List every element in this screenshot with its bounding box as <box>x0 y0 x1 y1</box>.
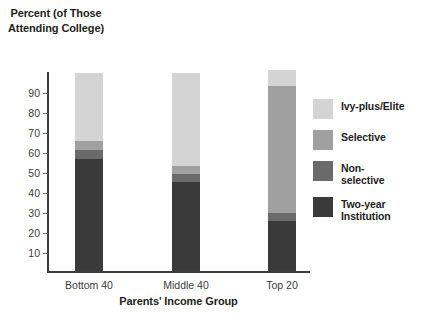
bar-segment[interactable] <box>268 213 296 221</box>
y-tick-mark <box>43 193 48 194</box>
y-tick-mark <box>43 213 48 214</box>
legend-label: Ivy-plus/Elite <box>341 99 404 112</box>
stacked-bar-chart: Percent (of Those Attending College) 102… <box>0 0 421 322</box>
x-axis-label: Top 20 <box>266 279 298 291</box>
y-tick-mark <box>43 133 48 134</box>
y-tick-label: 70 <box>28 127 40 139</box>
y-tick-mark <box>43 233 48 234</box>
x-axis-line <box>47 271 310 273</box>
y-tick-label: 30 <box>28 207 40 219</box>
legend-swatch-icon <box>313 161 333 181</box>
y-tick-label: 40 <box>28 187 40 199</box>
bar-top-20[interactable] <box>268 70 296 271</box>
bar-segment[interactable] <box>268 221 296 271</box>
y-tick-mark <box>43 153 48 154</box>
bar-segment[interactable] <box>172 182 200 271</box>
x-axis-label: Bottom 40 <box>65 279 113 291</box>
legend-swatch-icon <box>313 197 333 217</box>
y-tick-label: 80 <box>28 107 40 119</box>
y-tick-mark <box>43 113 48 114</box>
y-tick-label: 60 <box>28 147 40 159</box>
legend-label: Non- selective <box>341 161 384 186</box>
legend-label: Selective <box>341 130 386 143</box>
legend-item[interactable]: Selective <box>313 130 419 150</box>
y-tick-label: 20 <box>28 227 40 239</box>
x-axis-title: Parents' Income Group <box>47 295 310 307</box>
bar-segment[interactable] <box>75 73 103 141</box>
y-tick-label: 90 <box>28 87 40 99</box>
bar-segment[interactable] <box>268 70 296 86</box>
bar-segment[interactable] <box>268 86 296 213</box>
bar-segment[interactable] <box>172 73 200 166</box>
bar-segment[interactable] <box>172 174 200 182</box>
bar-bottom-40[interactable] <box>75 73 103 271</box>
legend-swatch-icon <box>313 130 333 150</box>
legend-item[interactable]: Non- selective <box>313 161 419 186</box>
legend-swatch-icon <box>313 99 333 119</box>
legend-label: Two-year Institution <box>341 197 391 222</box>
bar-segment[interactable] <box>75 150 103 159</box>
y-tick-mark <box>43 173 48 174</box>
chart-legend: Ivy-plus/EliteSelectiveNon- selectiveTwo… <box>313 99 419 233</box>
y-tick-mark <box>43 93 48 94</box>
bar-segment[interactable] <box>172 166 200 174</box>
bar-segment[interactable] <box>75 141 103 150</box>
y-axis-title: Percent (of Those Attending College) <box>0 6 112 35</box>
y-tick-label: 50 <box>28 167 40 179</box>
bar-middle-40[interactable] <box>172 73 200 271</box>
plot-area: 102030405060708090 Bottom 40Middle 40Top… <box>47 72 310 273</box>
y-tick-label: 10 <box>28 247 40 259</box>
x-axis-label: Middle 40 <box>163 279 209 291</box>
legend-item[interactable]: Ivy-plus/Elite <box>313 99 419 119</box>
bar-segment[interactable] <box>75 159 103 271</box>
y-tick-mark <box>43 253 48 254</box>
legend-item[interactable]: Two-year Institution <box>313 197 419 222</box>
